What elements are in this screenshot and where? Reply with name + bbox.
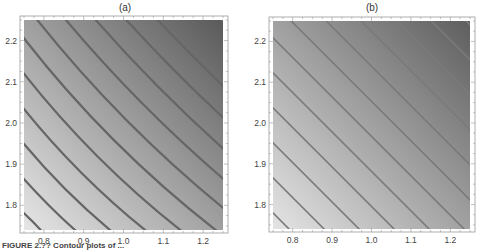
y-tick-label: 1.8 [254,200,266,210]
y-tick-label: 2.0 [254,118,266,128]
x-tick-label: 1.1 [405,235,417,245]
density-fill [273,21,470,229]
figure-caption: FIGURE 2.?? Contour plots of ... [2,241,124,250]
panel-b: (b) 0.80.91.01.11.21.81.92.02.12.2 [0,0,481,250]
x-tick-label: 0.9 [326,235,338,245]
x-tick-label: 1.2 [444,235,456,245]
contour-plot-b: 0.80.91.01.11.21.81.92.02.12.2 [0,0,481,250]
y-tick-label: 2.2 [254,36,266,46]
x-tick-label: 0.8 [287,235,299,245]
x-tick-label: 1.0 [366,235,378,245]
y-tick-label: 2.1 [254,77,266,87]
y-tick-label: 1.9 [254,159,266,169]
